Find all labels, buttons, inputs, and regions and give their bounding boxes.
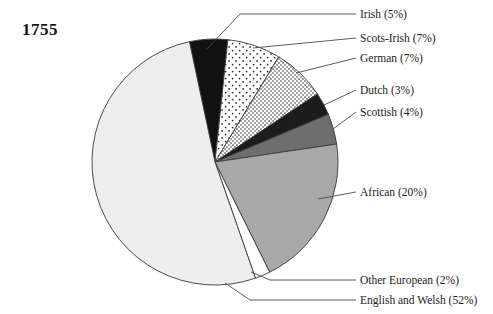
leader-line-scottish — [333, 112, 356, 129]
slice-label-german: German (7%) — [360, 53, 423, 65]
pie-chart-figure: 1755 — [0, 0, 493, 314]
leader-line-english-and-welsh — [225, 283, 356, 300]
slice-label-dutch: Dutch (3%) — [360, 85, 414, 97]
pie-chart-svg — [0, 0, 493, 314]
leader-line-scots-irish — [253, 38, 356, 48]
slice-label-scots-irish: Scots-Irish (7%) — [360, 33, 436, 45]
slice-label-english-and-welsh: English and Welsh (52%) — [360, 295, 477, 307]
leader-line-german — [296, 58, 356, 73]
slice-label-other-european: Other European (2%) — [360, 275, 459, 287]
leader-line-dutch — [324, 90, 356, 105]
page-title: 1755 — [22, 20, 58, 40]
slice-label-irish: Irish (5%) — [360, 9, 407, 21]
slice-label-african: African (20%) — [360, 187, 427, 199]
slice-label-scottish: Scottish (4%) — [360, 107, 423, 119]
